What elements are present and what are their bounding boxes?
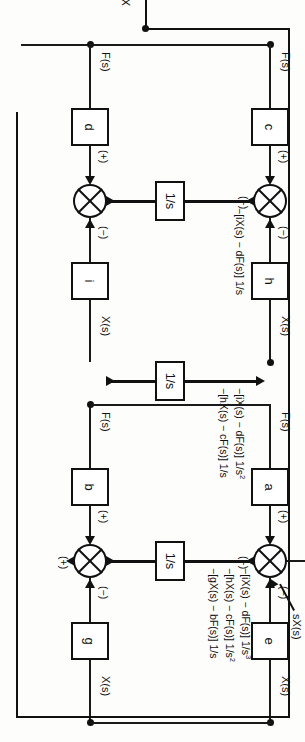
stage2-eq-text-1: −[iX(s) − dF(s)] 1/s: [240, 568, 252, 655]
stage3-input-bus: [91, 44, 271, 46]
stage3-eq-exp-1: 2: [238, 475, 247, 479]
stage4-eq-text-1: −[iX(s) − dF(s)] 1/s: [234, 208, 246, 295]
stage2-input-label: F(s): [100, 412, 112, 432]
stage2-eq-text-2: −[hX(s) − cF(s)] 1/s: [224, 568, 236, 658]
integrator-block-3[interactable]: 1/s: [155, 361, 185, 401]
stage1-gain-to-sum: [269, 506, 271, 540]
stage2-out-arrow: [256, 376, 265, 386]
stage4-sum-right-sign: (−): [98, 226, 110, 239]
stage1-sum-bottom-arrow: [246, 556, 255, 566]
gain-block-d[interactable]: d: [71, 108, 109, 146]
stage1-input-bus: [91, 404, 271, 406]
stage3-output-node: [267, 359, 274, 366]
stage4-input-bus: [21, 44, 91, 46]
top-output-bus-h: [145, 28, 290, 30]
bottom-return-bus: [16, 716, 290, 718]
stage4-output-label: X(s): [100, 316, 112, 336]
stage4-input-label: F(s): [100, 52, 112, 72]
stage3-gain-to-sum: [269, 146, 271, 180]
feedback-gain-block-g[interactable]: g: [71, 622, 109, 660]
output-bus: [91, 722, 271, 724]
stage2-input-line: [89, 404, 91, 468]
stage4-sum-up-arrow: [106, 196, 115, 206]
stage3-eq-text-2: −[hX(s) − cF(s)] 1/s: [218, 388, 230, 478]
stage2-feedback-arrow: [85, 579, 95, 588]
stage2-sum-up-arrow: [106, 376, 115, 386]
stage4-input-line: [89, 44, 91, 108]
stage2-output-label: X(s): [100, 676, 112, 696]
summing-junction-4[interactable]: [73, 184, 107, 218]
stage4-output-line: [89, 300, 91, 362]
stage1-input-label: F(s): [280, 412, 292, 432]
stage3-input-label: F(s): [280, 52, 292, 72]
stage4-feedback-arrow: [85, 219, 95, 228]
stage4-gain-to-sum: [89, 146, 91, 180]
stage3-input-line: [269, 44, 271, 108]
gain-block-b[interactable]: b: [71, 468, 109, 506]
stage2-equation-line-3: −[gX(s) − bF(s)] 1/s: [208, 568, 222, 658]
diagram-canvas: F(s) d (+) (−) i X(s) 1/s −[iX(s) − dF(s…: [0, 0, 305, 742]
stage1-output-label: X(s): [280, 676, 292, 696]
stage1-sum-up-arrow: [106, 556, 115, 566]
diagram-page: F(s) d (+) (−) i X(s) 1/s −[iX(s) − dF(s…: [0, 0, 305, 742]
integrator-block-4[interactable]: 1/s: [155, 181, 185, 221]
gain-block-c[interactable]: c: [251, 108, 289, 146]
stage2-gain-to-sum: [89, 506, 91, 540]
feedback-gain-block-i[interactable]: i: [71, 262, 109, 300]
gain-block-a[interactable]: a: [251, 468, 289, 506]
stage3-equation-line-1: −[iX(s) − dF(s)] 1/s2: [234, 388, 248, 479]
stage1-output-line: [269, 660, 271, 722]
stage2-sum-bottom-arrow: [66, 556, 75, 566]
feedback-gain-block-e[interactable]: e: [251, 622, 289, 660]
stage4-sum-left-sign: (+): [98, 150, 110, 163]
stage3-feedback-arrow: [265, 219, 275, 228]
sxs-label: sX(s): [291, 614, 303, 640]
stage3-equation-line-2: −[hX(s) − cF(s)] 1/s: [218, 388, 232, 478]
summing-junction-2[interactable]: [73, 544, 107, 578]
stage4-equation-line-1: −[iX(s) − dF(s)] 1/s: [234, 208, 248, 295]
left-input-bus-v: [16, 112, 18, 718]
stage2-sum-right-sign: (−): [98, 586, 110, 599]
integrator-block-2[interactable]: 1/s: [155, 541, 185, 581]
top-output-stem: [145, 0, 147, 28]
feedback-gain-block-h[interactable]: h: [251, 262, 289, 300]
stage2-sum-left-sign: (+): [98, 510, 110, 523]
stage3-output-label: X(s): [280, 316, 292, 336]
stage2-output-line: [89, 660, 91, 722]
stage3-sum-bottom-arrow: [246, 196, 255, 206]
right-output-bus-v: [288, 28, 290, 718]
top-output-label: X(s): [120, 0, 132, 6]
stage2-eq-text-3: −[gX(s) − bF(s)] 1/s: [208, 568, 220, 658]
stage2-eq-exp-2: 2: [228, 658, 237, 662]
stage1-input-line: [269, 404, 271, 468]
summing-junction-3[interactable]: [253, 184, 287, 218]
stage2-equation-line-2: −[hX(s) − cF(s)] 1/s2: [224, 568, 238, 662]
stage3-output-line: [269, 300, 271, 362]
stage3-eq-text-1: −[iX(s) − dF(s)] 1/s: [234, 388, 246, 475]
stage2-integrator-out-line: [185, 380, 261, 383]
summing-junction-1[interactable]: [253, 544, 287, 578]
